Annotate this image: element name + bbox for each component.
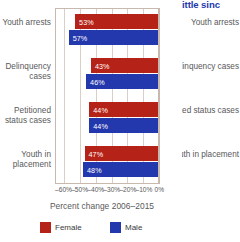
bar-male-petitioned-status-cases: 44% xyxy=(89,118,158,133)
x-tick--50: –50% xyxy=(71,186,88,193)
y-axis-label-text: Youth in placement xyxy=(13,150,51,169)
bar-value-label: 44% xyxy=(93,121,108,130)
x-tick--60: –60% xyxy=(55,186,72,193)
bar-female-petitioned-status-cases: 44% xyxy=(89,102,158,117)
bar-value-label: 46% xyxy=(90,77,105,86)
bar-female-youth-in-placement: 47% xyxy=(85,146,159,161)
bar-value-label: 43% xyxy=(95,61,110,70)
bar-value-label: 48% xyxy=(87,165,102,174)
chart-side-panel-partial: ittle sinc Youth arrests Delinquency cas… xyxy=(182,0,240,242)
y-axis-label-youth-in-placement: Youth in placement xyxy=(0,150,51,169)
side-label-delinquency-cases: Delinquency cases xyxy=(182,62,239,72)
bar-value-label: 53% xyxy=(79,17,94,26)
side-label-text: Delinquency cases xyxy=(182,62,239,71)
y-axis-label-text: Petitioned status cases xyxy=(5,106,51,125)
x-tick--40: –40% xyxy=(87,186,104,193)
chart-figure: Youth arrests Delinquency cases Petition… xyxy=(0,0,240,242)
legend-swatch-female-icon xyxy=(40,222,51,233)
plot-area: 53% 57% 43% 46% 44% 44% 47% xyxy=(55,8,160,184)
chart-main-panel: Youth arrests Delinquency cases Petition… xyxy=(0,0,182,242)
x-tick--20: –20% xyxy=(119,186,136,193)
bar-male-youth-in-placement: 48% xyxy=(83,162,158,177)
bar-value-label: 44% xyxy=(93,105,108,114)
y-axis-label-delinquency-cases: Delinquency cases xyxy=(0,62,51,81)
legend-label-male: Male xyxy=(125,223,142,232)
y-axis-category-labels: Youth arrests Delinquency cases Petition… xyxy=(0,8,53,184)
side-label-text: Youth arrests xyxy=(191,18,239,27)
y-axis-label-text: Youth arrests xyxy=(2,18,51,27)
x-axis-title: Percent change 2006–2015 xyxy=(22,201,182,211)
bar-male-delinquency-cases: 46% xyxy=(86,74,158,89)
gridline-zero xyxy=(158,9,159,183)
x-tick--10: –10% xyxy=(135,186,152,193)
side-label-petitioned-status-cases: Petitioned status cases xyxy=(182,106,239,116)
side-label-text: Petitioned status cases xyxy=(182,106,239,115)
side-label-youth-in-placement: Youth in placement xyxy=(182,150,239,160)
gridline--60 xyxy=(64,9,65,183)
legend-label-female: Female xyxy=(55,223,82,232)
legend-swatch-male-icon xyxy=(110,222,121,233)
x-tick-0: 0% xyxy=(155,186,165,193)
bar-female-youth-arrests: 53% xyxy=(75,14,158,29)
bar-female-delinquency-cases: 43% xyxy=(91,58,158,73)
y-axis-label-youth-arrests: Youth arrests xyxy=(0,18,51,28)
side-panel-category-labels: Youth arrests Delinquency cases Petition… xyxy=(182,8,240,184)
chart-legend: Female Male xyxy=(40,222,170,236)
bar-value-label: 47% xyxy=(89,149,104,158)
x-tick--30: –30% xyxy=(103,186,120,193)
side-label-youth-arrests: Youth arrests xyxy=(182,18,239,28)
y-axis-label-petitioned-status-cases: Petitioned status cases xyxy=(0,106,51,125)
x-axis-tick-labels: –60% –50% –40% –30% –20% –10% 0% xyxy=(55,186,160,197)
legend-item-female: Female xyxy=(40,222,82,233)
bar-male-youth-arrests: 57% xyxy=(69,30,159,45)
bar-value-label: 57% xyxy=(73,33,88,42)
legend-item-male: Male xyxy=(110,222,142,233)
y-axis-label-text: Delinquency cases xyxy=(5,62,51,81)
side-label-text: Youth in placement xyxy=(182,150,239,159)
